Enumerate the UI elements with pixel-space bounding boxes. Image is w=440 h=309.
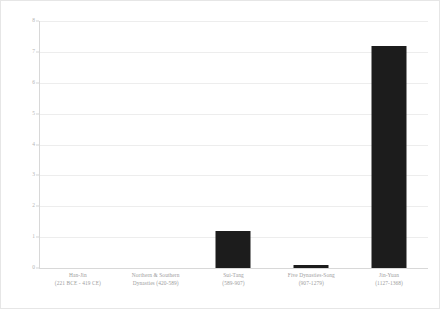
x-axis-label: Sui-Tang(589-907) <box>195 272 273 287</box>
x-axis-label: Jin-Yuan(1127-1368) <box>350 272 428 287</box>
bar-slot <box>39 21 117 268</box>
y-tick-label-0: 0 <box>5 265 35 271</box>
y-tick-label-3: 3 <box>5 173 35 179</box>
y-tick-mark-0 <box>36 268 39 269</box>
y-tick-mark-4 <box>36 144 39 145</box>
x-axis-label-range: Dynasties (420-589) <box>117 280 195 288</box>
bar-slot <box>195 21 273 268</box>
x-axis-label-range: (589-907) <box>195 280 273 288</box>
y-tick-label-2: 2 <box>5 204 35 210</box>
x-axis-label: Five Dynasties-Song(907-1279) <box>272 272 350 287</box>
bar <box>216 231 251 268</box>
plot-area <box>39 21 428 268</box>
x-axis-label-name: Sui-Tang <box>195 272 273 280</box>
y-tick-label-4: 4 <box>5 142 35 148</box>
bar <box>372 46 407 268</box>
x-axis-label-range: (221 BCE - 419 CE) <box>39 280 117 288</box>
bar-slot <box>117 21 195 268</box>
gridline-0 <box>39 268 428 269</box>
y-tick-label-5: 5 <box>5 111 35 117</box>
x-axis-label: Han-Jin(221 BCE - 419 CE) <box>39 272 117 287</box>
y-tick-mark-7 <box>36 51 39 52</box>
y-tick-label-6: 6 <box>5 80 35 86</box>
x-axis-category-labels: Han-Jin(221 BCE - 419 CE)Northern & Sout… <box>39 272 428 302</box>
x-axis-label-name: Jin-Yuan <box>350 272 428 280</box>
bar-slot <box>272 21 350 268</box>
x-axis-label-name: Northern & Southern <box>117 272 195 280</box>
bar <box>294 265 329 268</box>
bar-slot <box>350 21 428 268</box>
y-tick-mark-6 <box>36 82 39 83</box>
y-tick-label-1: 1 <box>5 234 35 240</box>
x-axis-label-name: Five Dynasties-Song <box>272 272 350 280</box>
y-axis-tick-labels: 012345678 <box>1 21 35 268</box>
x-axis-label: Northern & SouthernDynasties (420-589) <box>117 272 195 287</box>
x-axis-label-range: (1127-1368) <box>350 280 428 288</box>
y-tick-label-8: 8 <box>5 18 35 24</box>
y-tick-mark-3 <box>36 175 39 176</box>
x-axis-label-range: (907-1279) <box>272 280 350 288</box>
bar-chart-figure: 012345678 Han-Jin(221 BCE - 419 CE)North… <box>0 0 440 309</box>
y-tick-mark-8 <box>36 21 39 22</box>
x-axis-label-name: Han-Jin <box>39 272 117 280</box>
y-tick-label-7: 7 <box>5 49 35 55</box>
y-tick-mark-5 <box>36 113 39 114</box>
y-tick-mark-1 <box>36 237 39 238</box>
y-tick-mark-2 <box>36 206 39 207</box>
